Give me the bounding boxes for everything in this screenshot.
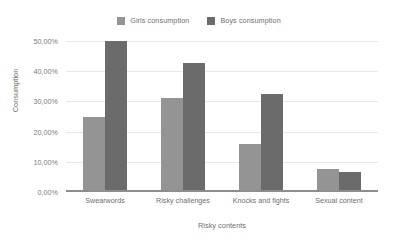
legend-swatch-icon-boys <box>207 17 215 25</box>
legend-swatch-icon-girls <box>117 17 125 25</box>
x-axis-tick-labels: SwearwordsRisky challengesKnocks and fig… <box>66 196 378 205</box>
bar-group <box>161 41 205 192</box>
x-axis-tick-label: Sexual content <box>300 196 378 205</box>
bar-girls[interactable] <box>317 169 339 192</box>
y-axis-tick-label: 20,00% <box>34 127 58 136</box>
y-axis-tick-label: 50,00% <box>34 37 58 46</box>
bar-group <box>317 41 361 192</box>
chart-legend: Girls consumption Boys consumption <box>0 16 398 25</box>
x-axis-tick-label: Knocks and fights <box>222 196 300 205</box>
bar-chart: Girls consumption Boys consumption Consu… <box>0 0 398 243</box>
y-axis-ticks: 0,00%10,00%20,00%30,00%40,00%50,00% <box>0 41 62 192</box>
legend-item-boys-consumption: Boys consumption <box>207 16 280 25</box>
bar-girls[interactable] <box>161 98 183 192</box>
legend-label-boys: Boys consumption <box>220 16 280 25</box>
y-axis-tick-label: 40,00% <box>34 67 58 76</box>
bar-boys[interactable] <box>183 63 205 192</box>
x-axis-line <box>66 190 378 192</box>
x-axis-tick-label: Swearwords <box>66 196 144 205</box>
bar-girls[interactable] <box>239 144 261 192</box>
plot-area <box>66 41 378 192</box>
y-axis-tick-label: 0,00% <box>38 188 58 197</box>
bar-boys[interactable] <box>105 41 127 192</box>
bar-boys[interactable] <box>339 172 361 192</box>
bar-groups <box>66 41 378 192</box>
y-axis-tick-label: 30,00% <box>34 97 58 106</box>
x-axis-tick-label: Risky challenges <box>144 196 222 205</box>
legend-item-girls-consumption: Girls consumption <box>117 16 189 25</box>
x-axis-title: Risky contents <box>66 221 378 230</box>
bar-girls[interactable] <box>83 117 105 193</box>
legend-label-girls: Girls consumption <box>130 16 189 25</box>
y-axis-tick-label: 10,00% <box>34 157 58 166</box>
bar-group <box>239 41 283 192</box>
bar-group <box>83 41 127 192</box>
bar-boys[interactable] <box>261 94 283 192</box>
